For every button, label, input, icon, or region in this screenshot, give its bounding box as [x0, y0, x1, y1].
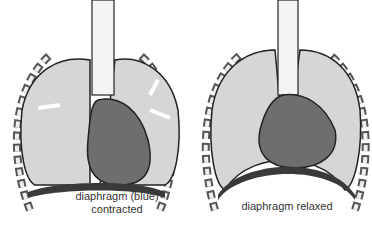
label-inhale-line1: diaphragm (blue)	[62, 190, 172, 203]
label-inhale-line2: contracted	[62, 203, 172, 216]
label-inhale: diaphragm (blue) contracted	[62, 190, 172, 216]
label-exhale: diaphragm relaxed	[232, 200, 342, 213]
label-exhale-line1: diaphragm relaxed	[232, 200, 342, 213]
breathing-diagram	[0, 0, 372, 228]
panel-exhale	[206, 0, 366, 210]
panel-inhale	[17, 0, 179, 210]
